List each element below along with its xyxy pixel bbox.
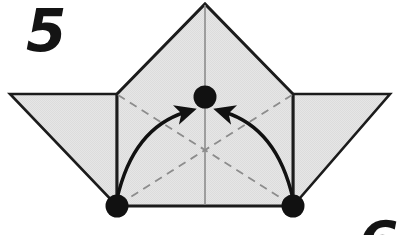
next-step-number-label: 6 bbox=[358, 214, 399, 235]
center-point-marker bbox=[194, 86, 217, 109]
origami-step-diagram: 5 6 bbox=[0, 0, 399, 235]
step-number-label: 5 bbox=[26, 2, 65, 60]
left-wing-shape bbox=[10, 94, 117, 206]
right-corner-marker bbox=[282, 195, 305, 218]
left-corner-marker bbox=[106, 195, 129, 218]
right-wing-shape bbox=[293, 94, 390, 206]
